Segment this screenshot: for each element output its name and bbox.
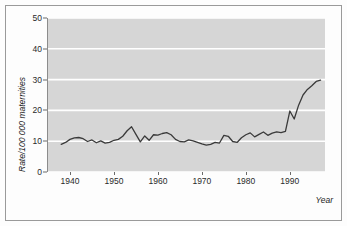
data-series-line xyxy=(61,80,320,145)
y-axis-tick-mark xyxy=(43,48,47,49)
y-axis-tick-mark xyxy=(43,141,47,142)
y-axis-tick-label: 40 xyxy=(33,45,42,54)
x-axis-tick-mark xyxy=(202,172,203,175)
x-axis-tick-label: 1940 xyxy=(61,177,80,186)
x-axis-tick-label: 1980 xyxy=(236,177,255,186)
x-axis-tick-mark xyxy=(246,172,247,175)
x-axis-tick-label: 1960 xyxy=(148,177,167,186)
y-axis-tick-mark xyxy=(43,110,47,111)
x-axis-tick-mark xyxy=(290,172,291,175)
y-axis-tick-mark xyxy=(43,172,47,173)
y-axis-tick-label: 50 xyxy=(33,14,42,23)
y-axis-label: Rate/100 000 maternities xyxy=(16,18,28,172)
y-axis-tick-mark xyxy=(43,79,47,80)
x-axis-label: Year xyxy=(316,196,334,205)
x-axis-tick-mark xyxy=(158,172,159,175)
y-axis-tick-mark xyxy=(43,18,47,19)
y-axis-tick-label: 20 xyxy=(33,106,42,115)
x-axis-tick-mark xyxy=(114,172,115,175)
y-axis-tick-label: 30 xyxy=(33,75,42,84)
y-axis-tick-label: 10 xyxy=(33,137,42,146)
x-axis-tick-mark xyxy=(70,172,71,175)
plot-area: 01020304050194019501960197019801990 xyxy=(48,18,325,172)
x-axis-tick-label: 1950 xyxy=(104,177,123,186)
chart-figure: Rate/100 000 maternities 010203040501940… xyxy=(0,0,347,226)
y-axis-tick-label: 0 xyxy=(37,168,42,177)
x-axis-tick-label: 1990 xyxy=(280,177,299,186)
x-axis-tick-label: 1970 xyxy=(192,177,211,186)
data-line-svg xyxy=(48,18,325,172)
